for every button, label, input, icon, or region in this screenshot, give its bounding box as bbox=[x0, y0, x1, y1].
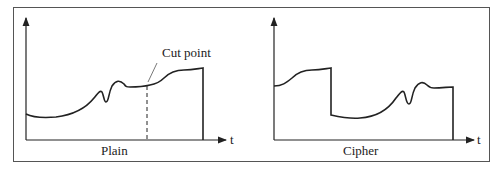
plain-axes bbox=[26, 18, 226, 140]
cipher-signal bbox=[274, 68, 453, 140]
plain-x-axis-label: t bbox=[230, 132, 234, 148]
plain-signal bbox=[26, 68, 203, 140]
cut-point-leader bbox=[148, 63, 157, 82]
cipher-axes bbox=[274, 18, 474, 140]
cut-point-label: Cut point bbox=[162, 45, 211, 61]
cipher-caption: Cipher bbox=[343, 143, 378, 159]
plain-caption: Plain bbox=[101, 143, 128, 159]
cipher-x-axis-label: t bbox=[477, 132, 481, 148]
diagram-canvas bbox=[0, 0, 500, 171]
